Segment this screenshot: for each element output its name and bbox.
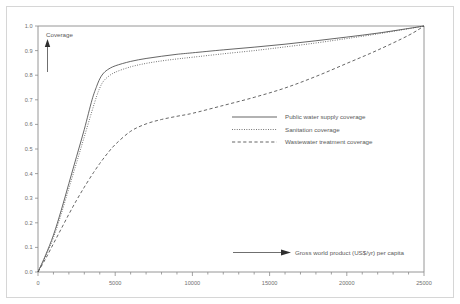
x-axis-title-group: Gross world product (US$/yr) per capita <box>233 249 405 256</box>
y-tick-label: 0.7 <box>25 97 33 103</box>
y-tick-label: 1.0 <box>25 23 33 29</box>
y-tick-label: 0.4 <box>25 171 33 177</box>
x-tick-label: 20000 <box>339 280 355 286</box>
x-axis-arrow-head <box>281 249 291 255</box>
y-axis-title-group: Coverage <box>45 31 74 72</box>
y-tick-label: 0.8 <box>25 72 33 78</box>
y-tick-label: 0.9 <box>25 48 33 54</box>
x-tick-label: 25000 <box>416 280 432 286</box>
x-tick-label: 10000 <box>185 280 201 286</box>
coverage-vs-gwp-chart: 0.00.10.20.30.40.50.60.70.80.91.0 050001… <box>0 0 460 304</box>
series-line-2 <box>38 26 424 272</box>
legend-label-1: Sanitation coverage <box>285 126 340 133</box>
y-axis-title: Coverage <box>46 31 73 38</box>
chart-legend: Public water supply coverageSanitation c… <box>232 113 373 145</box>
y-tick-label: 0.2 <box>25 220 33 226</box>
y-axis-ticks: 0.00.10.20.30.40.50.60.70.80.91.0 <box>25 23 38 275</box>
x-tick-label: 15000 <box>262 280 278 286</box>
x-tick-label: 0 <box>36 280 39 286</box>
y-tick-label: 0.6 <box>25 121 33 127</box>
data-series-group <box>38 26 424 272</box>
legend-label-2: Wastewater treatment coverage <box>285 138 373 145</box>
series-line-1 <box>38 26 424 272</box>
y-tick-label: 0.1 <box>25 244 33 250</box>
x-axis-ticks: 0500010000150002000025000 <box>36 272 431 286</box>
y-tick-label: 0.5 <box>25 146 33 152</box>
x-tick-label: 5000 <box>109 280 121 286</box>
x-axis-title: Gross world product (US$/yr) per capita <box>295 249 405 256</box>
y-axis-arrow-head <box>45 39 50 47</box>
y-tick-label: 0.3 <box>25 195 33 201</box>
legend-label-0: Public water supply coverage <box>285 113 366 120</box>
axis-lines <box>38 26 424 272</box>
chart-figure: 0.00.10.20.30.40.50.60.70.80.91.0 050001… <box>0 0 460 304</box>
series-line-0 <box>38 26 424 272</box>
y-tick-label: 0.0 <box>25 269 33 275</box>
